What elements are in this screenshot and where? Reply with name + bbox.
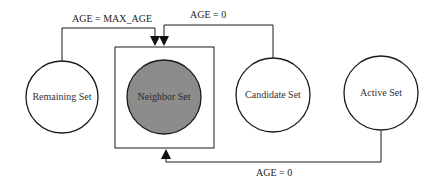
node-label: Active Set	[360, 87, 402, 98]
arrowhead-icon	[150, 36, 160, 46]
node-label: Candidate Set	[245, 89, 301, 100]
node-candidate-set: Candidate Set	[236, 58, 310, 132]
edge-candidate-to-neighbor	[159, 25, 273, 60]
arrowhead-icon	[161, 149, 171, 159]
arrowhead-icon	[159, 36, 169, 46]
node-neighbor-set: Neighbor Set	[127, 60, 201, 134]
edge-remaining-to-neighbor	[62, 28, 160, 61]
node-remaining-set: Remaining Set	[26, 61, 98, 133]
node-active-set: Active Set	[344, 56, 418, 130]
edge-label-max-age: AGE = MAX_AGE	[72, 13, 152, 24]
node-label: Remaining Set	[32, 91, 91, 102]
node-label: Neighbor Set	[137, 91, 190, 102]
state-diagram: AGE = MAX_AGE AGE = 0 AGE = 0 Remaining …	[0, 0, 435, 187]
edge-label-candidate-age: AGE = 0	[190, 9, 226, 20]
edge-label-active-age: AGE = 0	[256, 167, 292, 178]
edge-active-to-neighbor	[161, 131, 381, 162]
